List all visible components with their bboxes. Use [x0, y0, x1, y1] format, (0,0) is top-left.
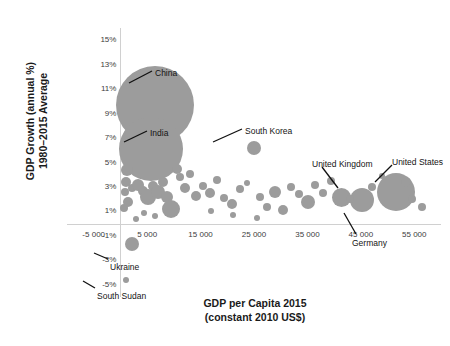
- bubble-point[interactable]: [236, 185, 244, 193]
- bubble-point[interactable]: [319, 189, 327, 197]
- annotation-label-united-kingdom: United Kingdom: [312, 159, 372, 169]
- bubble-point[interactable]: [133, 216, 139, 222]
- bubble-point[interactable]: [254, 215, 260, 221]
- bubble-point[interactable]: [176, 173, 184, 181]
- x-tick-label: 55 000: [392, 230, 436, 239]
- bubble-point[interactable]: [230, 212, 236, 218]
- bubble-point[interactable]: [287, 183, 295, 191]
- bubble-point[interactable]: [120, 204, 128, 212]
- y-tick-label: 11%: [86, 84, 116, 93]
- y-tick-label: 9%: [86, 109, 116, 118]
- bubble-point[interactable]: [408, 195, 416, 203]
- annotation-label-south-korea: South Korea: [245, 126, 292, 136]
- x-tick-label: 35 000: [285, 230, 329, 239]
- bubble-south-sudan[interactable]: [123, 277, 129, 283]
- bubble-point[interactable]: [205, 188, 215, 198]
- bubble-point[interactable]: [311, 181, 319, 189]
- bubble-point[interactable]: [162, 200, 180, 218]
- y-tick-label: 5%: [86, 158, 116, 167]
- bubble-point[interactable]: [368, 183, 376, 191]
- bubble-point[interactable]: [152, 213, 158, 219]
- y-tick-label: 1%: [86, 206, 116, 215]
- x-axis-line: [67, 224, 441, 225]
- bubble-point[interactable]: [418, 203, 426, 211]
- bubble-point[interactable]: [141, 210, 147, 216]
- bubble-point[interactable]: [186, 170, 194, 178]
- chart-root: GDP Growth (annual %) 1980–2015 Average …: [0, 0, 450, 346]
- y-tick-label: -5%: [86, 280, 116, 289]
- annotation-label-south-sudan: South Sudan: [97, 291, 146, 301]
- bubble-point[interactable]: [208, 208, 214, 214]
- x-tick-label: -5 000: [72, 230, 116, 239]
- annotation-label-ukraine: Ukraine: [110, 262, 139, 272]
- plot-area: 15%13%11%9%7%5%3%1%-1%-3%-5%-5 0005 0001…: [0, 0, 450, 346]
- y-tick-label: 7%: [86, 133, 116, 142]
- bubble-ukraine[interactable]: [125, 237, 139, 251]
- annotation-label-china: China: [155, 68, 177, 78]
- x-tick-label: 15 000: [179, 230, 223, 239]
- bubble-south-korea[interactable]: [247, 141, 261, 155]
- bubble-point[interactable]: [263, 203, 271, 211]
- bubble-point[interactable]: [180, 183, 190, 193]
- x-tick-label: 25 000: [232, 230, 276, 239]
- bubble-point[interactable]: [121, 164, 133, 176]
- bubble-point[interactable]: [191, 191, 201, 201]
- y-tick-label: 15%: [86, 35, 116, 44]
- bubble-point[interactable]: [269, 186, 281, 198]
- y-tick-label: 13%: [86, 60, 116, 69]
- annotation-label-india: India: [150, 128, 168, 138]
- bubble-point[interactable]: [244, 180, 250, 186]
- y-tick-label: 3%: [86, 182, 116, 191]
- bubble-point[interactable]: [301, 195, 315, 209]
- annotation-label-germany: Germany: [352, 238, 387, 248]
- annotation-label-united-states: United States: [392, 157, 443, 167]
- bubble-point[interactable]: [158, 177, 168, 187]
- bubble-point[interactable]: [213, 176, 221, 184]
- bubble-point[interactable]: [278, 205, 288, 215]
- bubble-point[interactable]: [256, 193, 264, 201]
- bubble-point[interactable]: [172, 164, 182, 174]
- bubble-point[interactable]: [327, 177, 335, 185]
- bubble-point[interactable]: [227, 199, 237, 209]
